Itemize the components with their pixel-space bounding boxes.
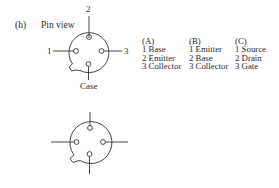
pin-3-icon (99, 49, 104, 54)
pin-1-label: 1 (47, 47, 52, 56)
pinout-item: 3 Gate (235, 62, 266, 70)
pinout-column-b: (B) 1 Emitter 2 Base 3 Collector (189, 37, 228, 70)
pin-3-label: 3 (124, 47, 129, 56)
pinout-column-c: (C) 1 Source 2 Drain 3 Gate (235, 37, 266, 70)
pin-2-label: 2 (86, 5, 91, 14)
bottom-pin-diagram (51, 112, 128, 174)
pinout-item: 3 Collector (189, 62, 228, 70)
case-label: Case (80, 82, 98, 91)
pin-1-icon (74, 49, 79, 54)
case-pin-icon (86, 62, 91, 67)
package-tab-icon (69, 64, 80, 71)
package-tab-icon (70, 155, 80, 163)
top-pin-diagram (0, 0, 279, 188)
pinout-column-a: (A) 1 Base 2 Emitter 3 Collector (142, 37, 181, 70)
pinout-item: 3 Collector (142, 62, 181, 70)
